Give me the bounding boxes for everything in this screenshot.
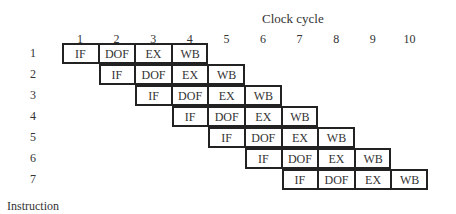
stage-cell-dof: DOF — [172, 85, 209, 106]
stage-cell-ex: EX — [135, 43, 172, 64]
stage-cell-wb: WB — [318, 127, 355, 148]
stage-cell-dof: DOF — [208, 106, 245, 127]
clock-cycle-label: 6 — [245, 32, 281, 47]
stage-cell-ex: EX — [245, 106, 282, 127]
stage-cell-ex: EX — [318, 148, 355, 169]
stage-cell-if: IF — [99, 64, 136, 85]
instruction-label: 6 — [26, 151, 40, 166]
stage-cell-wb: WB — [245, 85, 282, 106]
stage-cell-ex: EX — [172, 64, 209, 85]
y-axis-label: Instruction — [7, 199, 59, 214]
stage-cell-if: IF — [135, 85, 172, 106]
clock-cycle-label: 7 — [282, 32, 318, 47]
stage-cell-dof: DOF — [282, 148, 319, 169]
clock-cycle-label: 8 — [318, 32, 354, 47]
stage-cell-wb: WB — [172, 43, 209, 64]
instruction-label: 4 — [26, 109, 40, 124]
clock-cycle-label: 9 — [355, 32, 391, 47]
stage-cell-wb: WB — [391, 169, 428, 190]
stage-cell-dof: DOF — [99, 43, 136, 64]
instruction-label: 2 — [26, 67, 40, 82]
clock-cycle-label: 5 — [208, 32, 244, 47]
stage-cell-ex: EX — [355, 169, 392, 190]
instruction-label: 1 — [26, 46, 40, 61]
stage-cell-wb: WB — [282, 106, 319, 127]
stage-cell-wb: WB — [355, 148, 392, 169]
stage-cell-if: IF — [172, 106, 209, 127]
stage-cell-dof: DOF — [318, 169, 355, 190]
stage-cell-ex: EX — [208, 85, 245, 106]
stage-cell-if: IF — [245, 148, 282, 169]
diagram-title: Clock cycle — [262, 11, 324, 27]
stage-cell-dof: DOF — [245, 127, 282, 148]
instruction-label: 5 — [26, 130, 40, 145]
instruction-label: 3 — [26, 88, 40, 103]
stage-cell-dof: DOF — [135, 64, 172, 85]
stage-cell-if: IF — [62, 43, 99, 64]
stage-cell-wb: WB — [208, 64, 245, 85]
clock-cycle-label: 10 — [391, 32, 427, 47]
stage-cell-ex: EX — [282, 127, 319, 148]
stage-cell-if: IF — [208, 127, 245, 148]
instruction-label: 7 — [26, 172, 40, 187]
stage-cell-if: IF — [282, 169, 319, 190]
